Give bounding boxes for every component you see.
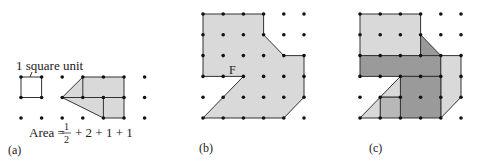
region-light [441,56,461,118]
lattice-dot [201,12,205,16]
lattice-dot [19,75,23,79]
lattice-dot [242,116,246,120]
lattice-dot [459,95,463,99]
lattice-dot [242,95,246,99]
lattice-dot [459,75,463,79]
lattice-dot [60,75,64,79]
lattice-dot [262,116,266,120]
lattice-dot [201,33,205,37]
lattice-dot [19,116,23,120]
lattice-dot [459,12,463,16]
lattice-dot [221,75,225,79]
lattice-dot [81,75,85,79]
caption-b: (b) [199,141,213,155]
lattice-dot [378,116,382,120]
lattice-area-figure: 1 square unit Area = 1 2 + 2 + 1 + 1 (a)… [0,0,481,162]
lattice-dot [399,33,403,37]
lattice-dot [419,12,423,16]
lattice-dot [221,12,225,16]
lattice-dot [439,75,443,79]
lattice-dot [399,54,403,58]
lattice-dot [40,96,44,100]
lattice-dot [19,96,23,100]
panel-b [201,12,306,120]
lattice-dot [242,12,246,16]
lattice-dot [282,12,286,16]
lattice-dot [419,33,423,37]
lattice-dot [399,116,403,120]
region-light [380,76,400,97]
lattice-dot [262,54,266,58]
region-dark [421,35,441,56]
lattice-dot [459,33,463,37]
lattice-dot [358,116,362,120]
lattice-dot [282,95,286,99]
lattice-dot [60,96,64,100]
lattice-dot [40,116,44,120]
area-rest: + 2 + 1 + 1 [75,125,133,140]
lattice-dot [143,75,147,79]
lattice-dot [201,75,205,79]
lattice-dot [459,54,463,58]
lattice-dot [60,116,64,120]
lattice-dot [399,95,403,99]
unit-square [21,77,42,98]
region-dark [360,56,441,77]
panel-c [358,12,463,120]
lattice-dot [221,33,225,37]
lattice-dot [242,75,246,79]
lattice-dot [358,12,362,16]
lattice-dot [262,75,266,79]
lattice-dot [378,33,382,37]
lattice-dot [302,12,306,16]
lattice-dot [122,116,126,120]
caption-c: (c) [369,141,382,155]
lattice-dot [102,116,106,120]
lattice-dot [81,96,85,100]
lattice-dot [122,75,126,79]
lattice-dot [282,54,286,58]
lattice-dot [358,33,362,37]
lattice-dot [102,96,106,100]
lattice-dot [399,12,403,16]
lattice-dot [262,95,266,99]
lattice-dot [242,54,246,58]
lattice-dot [439,116,443,120]
lattice-dot [221,116,225,120]
lattice-dot [399,75,403,79]
point-label-f: F [229,63,236,77]
region-medium [380,97,400,118]
lattice-dot [143,96,147,100]
lattice-dot [143,116,147,120]
lattice-dot [439,54,443,58]
area-prefix: Area = [29,125,65,140]
lattice-dot [282,33,286,37]
lattice-dot [262,12,266,16]
lattice-dot [419,75,423,79]
lattice-dot [282,75,286,79]
lattice-dot [358,54,362,58]
lattice-dot [81,116,85,120]
lattice-dot [419,116,423,120]
lattice-dot [201,116,205,120]
lattice-dot [419,54,423,58]
lattice-dot [262,33,266,37]
lattice-dot [242,33,246,37]
lattice-dot [302,95,306,99]
lattice-polygon [203,14,304,118]
lattice-dot [40,75,44,79]
lattice-dot [358,75,362,79]
lattice-dot [378,12,382,16]
lattice-dot [459,116,463,120]
lattice-dot [378,95,382,99]
lattice-dot [302,54,306,58]
lattice-dot [221,54,225,58]
area-frac-num: 1 [64,121,69,132]
lattice-dot [302,33,306,37]
lattice-dot [221,95,225,99]
lattice-dot [201,95,205,99]
lattice-dot [102,75,106,79]
lattice-dot [439,12,443,16]
caption-a: (a) [8,143,21,157]
lattice-dot [378,54,382,58]
